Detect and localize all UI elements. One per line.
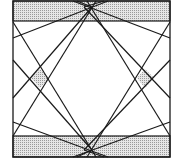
bottom-band (13, 136, 170, 157)
geometric-diagram (0, 0, 175, 168)
top-band (13, 1, 170, 21)
left-diamond (31, 69, 49, 88)
